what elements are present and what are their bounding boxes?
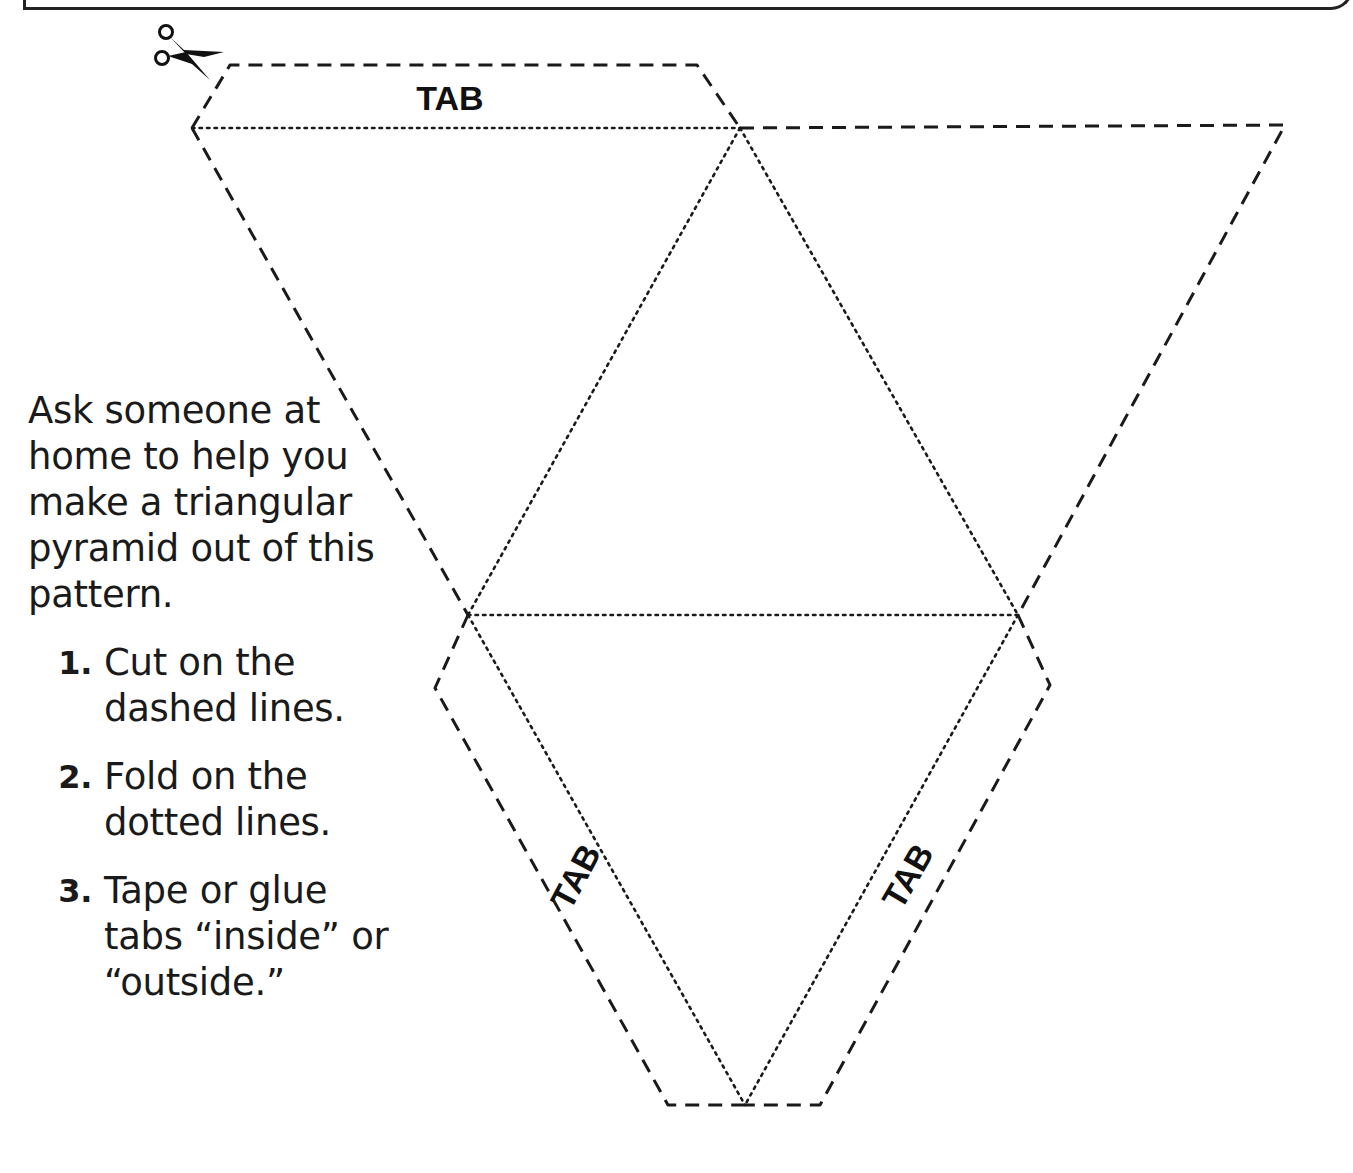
step-text: Fold on the dotted lines. [104,754,408,846]
step-item: 2. Fold on the dotted lines. [28,754,408,846]
instructions-panel: Ask someone at home to help you make a t… [28,388,408,1028]
step-text: Tape or glue tabs “inside” or “outside.” [104,868,408,1006]
step-item: 3. Tape or glue tabs “inside” or “outsid… [28,868,408,1006]
step-number: 2. [28,754,104,846]
step-number: 1. [28,640,104,732]
step-item: 1. Cut on the dashed lines. [28,640,408,732]
step-number: 3. [28,868,104,1006]
tab-label-top: TAB [416,79,483,117]
intro-text: Ask someone at home to help you make a t… [28,388,408,618]
step-text: Cut on the dashed lines. [104,640,408,732]
scissors-icon [156,26,225,81]
tab-label-left: TAB [543,838,608,915]
steps-list: 1. Cut on the dashed lines. 2. Fold on t… [28,640,408,1006]
